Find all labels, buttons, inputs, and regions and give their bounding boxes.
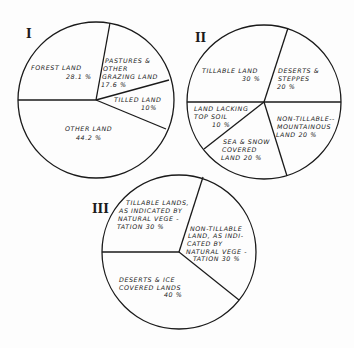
land-use-pie-charts: I II III FOREST LAND 28.1 % PASTURES & O… [0,0,354,348]
pie-2-numeral: II [195,31,207,45]
charts-canvas: I II III FOREST LAND 28.1 % PASTURES & O… [0,0,354,348]
pie-1-label-forest: FOREST LAND [31,64,82,71]
pie-1-label-pastures: GRAZING LAND [102,73,158,80]
pie-3-numeral: III [92,202,109,216]
pie-1-value-forest: 28.1 % [66,73,92,80]
pie-3-label-tillable: TILLABLE LANDS, [126,199,189,206]
pie-3-value-deserts: 40 % [164,291,182,298]
pie-2-label-lacking: LAND LACKING [194,105,248,112]
pie-3-label-tillable: AS INDICATED BY [118,207,183,214]
pie-2-value-tillable: 30 % [242,75,260,82]
pie-1-numeral: I [26,27,32,41]
pie-2-value-sea: LAND 20 % [221,154,262,161]
pie-3-label-nontillable: CATED BY [187,240,223,247]
pie-1-label-pastures: OTHER [103,65,128,72]
pie-3-label-nontillable: NON-TILLABLE [190,225,242,232]
pie-2-divider [264,28,288,102]
pie-2-label-tillable: TILLABLE LAND [202,67,258,74]
pie-3-label-tillable: NATURAL VEGE - [118,215,179,222]
pie-3-value-tillable: TATION 30 % [117,223,164,230]
pie-3-value-nontillable: TATION 30 % [193,255,240,262]
pie-2-value-deserts: 20 % [277,83,295,90]
pie-2-label-lacking: TOP SOIL [194,113,228,120]
pie-1-label-other: OTHER LAND [65,125,112,132]
pie-1-label-tilled: TILLED LAND [114,96,162,103]
pie-1-value-other: 44.2 % [76,134,102,141]
pie-1-label-pastures: PASTURES & [105,57,151,64]
pie-2-value-lacking: 10 % [212,121,230,128]
pie-3-label-nontillable: NATURAL VEGE - [186,248,247,255]
pie-2-label-sea: SEA & SNOW [223,138,270,145]
pie-2-label-nontillable: NON-TILLABLE-- [277,115,335,122]
pie-2-label-deserts: DESERTS & [278,67,319,74]
pie-2-value-nontillable: LAND 20 % [276,131,317,138]
pie-2-label-nontillable: MOUNTAINOUS [277,123,331,130]
pie-chart-2 [187,25,341,179]
pie-2-label-sea: COVERED [222,146,257,153]
pie-1-value-pastures: 17.6 % [101,81,127,88]
pie-3-label-nontillable: LAND, AS INDI- [188,232,244,239]
pie-1-value-tilled: 10% [141,104,157,111]
pie-3-label-deserts: COVERED LANDS [119,284,181,291]
pie-3-label-deserts: DESERTS & ICE [119,276,175,283]
pie-2-label-deserts: STEPPES [278,75,310,82]
